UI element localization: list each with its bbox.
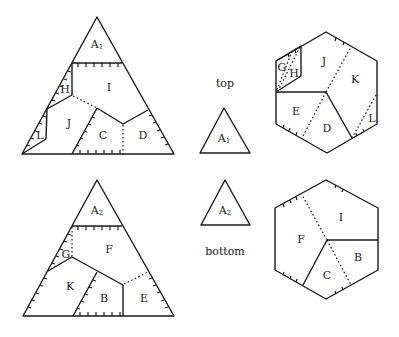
top-hex-piece-h: H xyxy=(289,67,299,80)
dissection-diagram: A1 I H J L C D xyxy=(0,0,399,337)
top-piece-l: L xyxy=(36,129,44,142)
top-cap-label: A1 xyxy=(90,38,103,51)
bottom-piece-g: G xyxy=(62,248,71,261)
small-triangle-top-label: A1 xyxy=(217,132,230,145)
top-hex-piece-g: G xyxy=(278,61,287,74)
diagram-canvas: A1 I H J L C D xyxy=(0,0,399,337)
top-piece-c: C xyxy=(99,129,107,142)
bottom-cap-label: A2 xyxy=(90,204,103,217)
bottom-triangle-outline xyxy=(23,180,174,316)
bottom-kf-boundary xyxy=(48,257,123,316)
top-piece-d: D xyxy=(139,129,148,142)
top-d-right-ticks xyxy=(149,115,168,145)
bottom-piece-e: E xyxy=(140,292,148,305)
top-hex-piece-k: K xyxy=(351,73,360,86)
bottom-hex-fi-dotted xyxy=(302,195,327,240)
center-column: top A1 A2 bottom xyxy=(200,77,250,258)
bottom-hexagon: I F B C xyxy=(275,180,378,299)
top-hex-jk-dotted xyxy=(326,47,351,92)
small-triangle-bottom-label: A2 xyxy=(218,204,231,217)
bottom-fe-dotted xyxy=(124,272,148,284)
bottom-e-right-ticks xyxy=(149,278,168,308)
top-hex-piece-l: L xyxy=(368,112,376,125)
bottom-piece-k: K xyxy=(66,280,75,293)
bottom-hex-piece-i: I xyxy=(339,211,343,224)
bottom-hex-piece-b: B xyxy=(354,251,362,264)
bottom-piece-f: F xyxy=(105,243,113,256)
bottom-hex-piece-f: F xyxy=(297,233,305,246)
bottom-caption: bottom xyxy=(205,245,245,258)
top-piece-j: J xyxy=(66,117,71,130)
bottom-triangle: A2 F G K B E xyxy=(23,180,174,316)
top-hex-piece-d: D xyxy=(323,122,332,135)
top-triangle: A1 I H J L C D xyxy=(22,17,174,154)
bottom-k-left-ticks xyxy=(28,278,47,308)
top-hex-piece-e: E xyxy=(292,105,300,118)
top-piece-h: H xyxy=(60,83,70,96)
top-cd-upper-boundary xyxy=(97,108,148,124)
top-caption: top xyxy=(216,77,234,90)
top-hex-piece-j: J xyxy=(321,55,326,68)
small-triangle-top xyxy=(200,108,250,153)
bottom-hex-piece-c: C xyxy=(323,269,331,282)
top-hi-dotted xyxy=(73,96,97,108)
top-piece-i: I xyxy=(107,81,111,94)
top-hexagon: G H J K E D L xyxy=(276,32,377,153)
bottom-piece-b: B xyxy=(100,292,108,305)
small-triangle-bottom xyxy=(201,180,250,225)
